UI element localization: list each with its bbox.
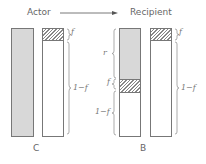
brace-label-b-1mf: 1−f (95, 107, 110, 116)
segment-hatched (43, 29, 63, 41)
brace-c-1mf (67, 42, 71, 134)
brace-b-r (112, 29, 116, 78)
brace-label-b2-f: f (179, 27, 182, 36)
right-arrow-icon (60, 11, 118, 15)
brace-label-c-f: f (71, 27, 74, 36)
segment-grey (120, 29, 140, 79)
bar-b-actor (119, 28, 141, 137)
brace-label-c-1mf: 1−f (73, 83, 88, 92)
brace-label-b-f: f (107, 77, 110, 86)
brace-b-1mf (112, 91, 116, 135)
brace-b-f (112, 79, 116, 89)
segment-grey (12, 29, 33, 136)
brace-b2-1mf (175, 42, 179, 134)
segment-hatched (151, 29, 171, 41)
bar-c-actor (11, 28, 34, 137)
bar-c-recipient (42, 28, 64, 137)
segment-hatched (120, 79, 140, 93)
panel-label-c: C (33, 143, 39, 153)
brace-label-b-r: r (103, 48, 107, 57)
bar-b-recipient (150, 28, 172, 137)
brace-label-b2-1mf: 1−f (181, 83, 196, 92)
panel-label-b: B (140, 143, 146, 153)
